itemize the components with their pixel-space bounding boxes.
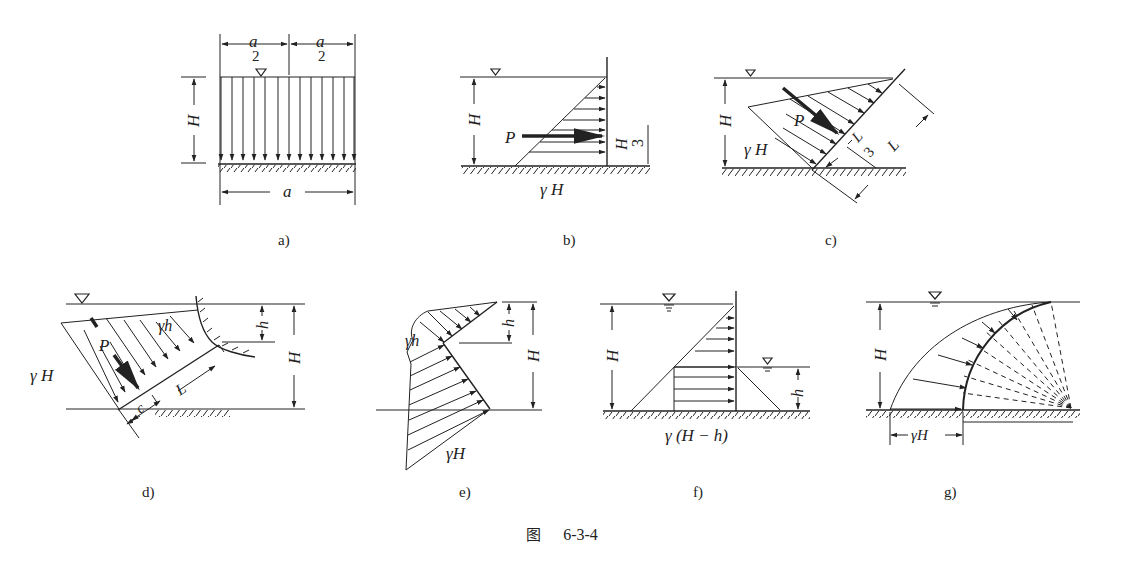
- panel-b-force-label: P: [504, 128, 515, 147]
- caption-prefix: 图: [526, 526, 541, 544]
- figure-canvas: a 2 a 2 H a P H H 3 γ H: [0, 0, 1124, 570]
- panel-c-label: c): [825, 232, 837, 249]
- figure-caption: 图6-3-4: [0, 523, 1124, 544]
- panel-c-height-label: H: [716, 113, 735, 128]
- panel-g-base-pressure-label: γH: [911, 427, 929, 443]
- panel-e-base-pressure-label: γH: [446, 444, 467, 463]
- panel-c-inclined-wall: [714, 69, 934, 203]
- panel-c-force-label: P: [793, 111, 804, 130]
- panel-f-base-pressure-label: γ (H − h): [665, 426, 728, 445]
- panel-b-height-label: H: [465, 112, 484, 127]
- caption-number: 6-3-4: [563, 526, 598, 543]
- panel-d-broken-slope: [61, 294, 305, 438]
- panel-a-width-label: a: [283, 182, 292, 201]
- panel-g-height-label: H: [871, 347, 890, 362]
- panel-e-label-visible: e): [459, 484, 471, 501]
- panel-c-arm-label-den: 3: [860, 144, 877, 160]
- panel-d-force-label: P: [98, 336, 109, 355]
- panel-a-dim-2-right: 2: [318, 48, 326, 64]
- panel-d-length-label: L: [171, 379, 189, 399]
- panel-a-dim-2-left: 2: [252, 48, 260, 64]
- panel-f-two-sided-wall: [600, 291, 810, 419]
- panel-a-uniform-load: [181, 34, 356, 205]
- panel-c-arm-label-num: L: [848, 128, 866, 146]
- panel-b-label: b): [563, 232, 576, 249]
- panel-b-arm-label-den: 3: [629, 139, 646, 147]
- panel-c-length-label: L: [883, 136, 902, 155]
- panel-d-depth-label: h: [254, 321, 271, 329]
- panel-e-depth-label: h: [500, 319, 517, 327]
- panel-d-height-label: H: [285, 350, 304, 365]
- panel-b-base-pressure-label: γ H: [540, 180, 565, 199]
- panel-d-top-pressure-label: γh: [158, 317, 172, 335]
- panel-f-height-label: H: [603, 348, 622, 363]
- panel-b-arm-label-num: H: [613, 137, 630, 151]
- panel-b-vertical-wall: [460, 57, 650, 174]
- panel-e-top-pressure-label: γh: [405, 332, 419, 350]
- panel-g-curved-surface: [866, 292, 1080, 445]
- panel-f-label: f): [693, 484, 703, 501]
- panel-c-base-pressure-label: γ H: [744, 140, 769, 159]
- panel-e-height-label: H: [524, 348, 543, 363]
- panel-f-tail-depth-label: h: [789, 389, 806, 397]
- panel-a-label: a): [278, 232, 290, 249]
- panel-d-offset-label: c: [133, 399, 148, 416]
- panel-d-label: d): [142, 484, 155, 501]
- panel-g-label: g): [944, 484, 957, 501]
- panel-d-base-pressure-label: γ H: [30, 366, 55, 385]
- panel-a-height-label: H: [184, 113, 203, 128]
